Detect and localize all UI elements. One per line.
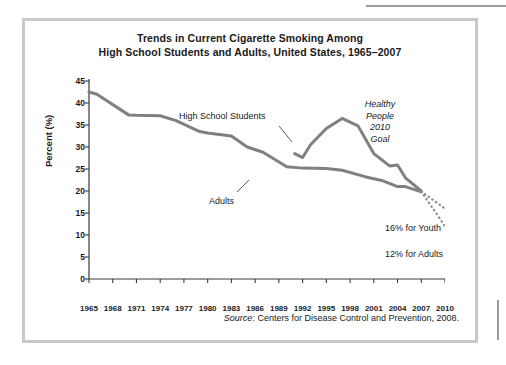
projection-line-adults <box>421 191 445 226</box>
series-label-adults: Adults <box>209 196 234 206</box>
goal-line-3: 2010 <box>351 122 409 134</box>
chart-title-line-2: High School Students and Adults, United … <box>25 45 475 59</box>
x-tick-label: 2010 <box>430 304 460 313</box>
chart-title: Trends in Current Cigarette Smoking Amon… <box>25 31 475 59</box>
leader-line-adults <box>237 180 249 192</box>
goal-line-1: Healthy <box>351 99 409 111</box>
projection-label-adults: 12% for Adults <box>385 249 443 259</box>
page-edge-rule <box>366 5 506 7</box>
y-tick-label: 35 <box>61 120 85 130</box>
chart-title-line-1: Trends in Current Cigarette Smoking Amon… <box>25 31 475 45</box>
series-label-high-school-students: High School Students <box>179 111 266 121</box>
y-axis-title: Percent (%) <box>43 115 54 167</box>
source-note: Source: Centers for Disease Control and … <box>25 313 459 323</box>
x-axis-ticks <box>89 279 445 283</box>
source-text: : Centers for Disease Control and Preven… <box>252 313 459 323</box>
y-tick-label: 10 <box>61 230 85 240</box>
goal-line-2: People <box>351 111 409 123</box>
figure-frame: Trends in Current Cigarette Smoking Amon… <box>22 18 478 343</box>
healthy-people-goal-annotation: Healthy People 2010 Goal <box>351 99 409 145</box>
y-tick-label: 0 <box>61 274 85 284</box>
page-edge-mark <box>497 300 499 340</box>
y-tick-label: 25 <box>61 164 85 174</box>
projection-label-youth: 16% for Youth <box>385 223 441 233</box>
plot-area: Percent (%) Year High School Students Ad… <box>61 79 445 297</box>
goal-line-4: Goal <box>351 134 409 146</box>
y-tick-label: 45 <box>61 76 85 86</box>
projection-line-youth <box>421 191 445 208</box>
y-tick-label: 15 <box>61 208 85 218</box>
y-tick-label: 30 <box>61 142 85 152</box>
y-tick-label: 40 <box>61 98 85 108</box>
leader-line-high-school <box>279 126 292 142</box>
y-tick-label: 5 <box>61 252 85 262</box>
source-word: Source <box>224 313 253 323</box>
y-tick-label: 20 <box>61 186 85 196</box>
